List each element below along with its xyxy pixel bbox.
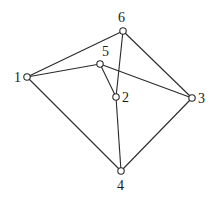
node-6 <box>120 28 126 34</box>
edge-2-4 <box>116 97 121 171</box>
node-3 <box>189 95 195 101</box>
node-label-4: 4 <box>117 178 124 193</box>
nodes <box>24 28 195 174</box>
node-1 <box>24 74 30 80</box>
node-5 <box>97 61 103 67</box>
node-label-6: 6 <box>118 10 125 25</box>
node-2 <box>113 94 119 100</box>
node-4 <box>118 168 124 174</box>
node-label-5: 5 <box>102 44 109 59</box>
graph-diagram: 123456 <box>0 0 216 198</box>
node-label-2: 2 <box>122 90 129 105</box>
edge-3-4 <box>121 98 192 171</box>
edge-6-3 <box>123 31 192 98</box>
edge-6-2 <box>116 31 123 97</box>
node-label-3: 3 <box>198 91 205 106</box>
edge-1-5 <box>27 64 100 77</box>
edges <box>27 31 192 171</box>
node-label-1: 1 <box>14 70 21 85</box>
edge-1-4 <box>27 77 121 171</box>
